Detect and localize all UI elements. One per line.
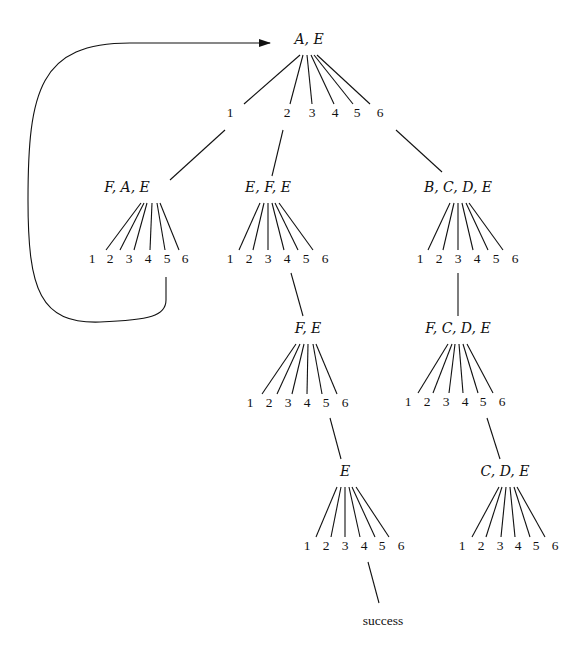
state-node-fae: F, A, E [103,179,150,195]
choice-label: 1 [227,251,234,266]
state-node-cde: C, D, E [481,463,530,479]
choice-label: 3 [443,394,450,409]
choice-label: 5 [354,105,361,120]
branch-edge [486,487,502,537]
choice-label: 6 [182,251,189,266]
choice-label: 6 [342,395,349,410]
choice-label: 2 [107,251,114,266]
branch-edge [331,487,341,537]
choice-label: 3 [497,538,504,553]
branch-edge [469,203,503,250]
branch-edge [418,344,448,393]
search-tree-diagram: A, E123456F, A, E123456E, F, E123456B, C… [0,0,584,650]
choice-label: 6 [377,105,384,120]
branch-edge [150,203,152,250]
state-node-e: E [339,463,350,479]
choice-label: 1 [459,538,466,553]
choice-label: 4 [361,538,368,553]
choice-label: 2 [284,105,291,120]
branch-edge [314,55,353,104]
branch-edge [433,344,452,393]
branch-edge [462,203,473,250]
state-node-bcde: B, C, D, E [423,179,492,195]
branch-edge [311,55,334,104]
branch-edge [253,203,264,250]
choice-label: 5 [533,538,540,553]
branch-edge [501,487,506,537]
choice-label: 2 [436,251,443,266]
state-node-efe: E, F, E [244,179,291,195]
choice-label: 6 [552,538,559,553]
choice-label: 1 [227,105,234,120]
choice-label: 6 [398,538,405,553]
branch-edge [316,344,337,394]
choice-label: 3 [342,538,349,553]
link-edge-efe-fe [291,273,303,316]
branch-edge [517,487,545,537]
branch-edge [292,344,304,394]
choice-label: 2 [266,395,273,410]
link-edge-root-fae [170,130,225,180]
branch-edge [352,487,375,537]
choice-label: 2 [478,538,485,553]
choice-label: 2 [323,538,330,553]
branch-edge [317,55,370,104]
choice-label: 3 [285,395,292,410]
choice-label: 6 [512,251,519,266]
branch-edge [157,203,165,250]
choice-label: 1 [405,394,412,409]
choice-label: 4 [332,105,339,120]
branch-edge [277,344,300,394]
branch-edge [239,203,260,250]
branch-edge [262,344,296,394]
choice-label: 5 [164,251,171,266]
choice-label: 4 [474,251,481,266]
state-node-fe: F, E [294,320,322,336]
branch-edge [316,487,337,537]
branch-edge [313,344,322,394]
branch-edge [307,344,308,394]
choice-label: 5 [379,538,386,553]
choice-label: 1 [304,538,311,553]
state-node-fcde: F, C, D, E [424,320,490,336]
choice-label: 5 [303,251,310,266]
branch-edge [449,344,455,393]
branch-edge [514,487,530,537]
choice-label: 3 [126,251,133,266]
branch-edge [160,203,179,250]
branch-edge [459,344,463,393]
choice-label: 4 [515,538,522,553]
choice-label: 3 [265,251,272,266]
choice-label: 1 [247,395,254,410]
branch-edge [356,487,389,537]
choice-label: 5 [323,395,330,410]
choice-label: 6 [322,251,329,266]
branch-edge [279,203,313,250]
branch-edge [466,203,488,250]
choice-label: 4 [462,394,469,409]
choice-label: 4 [304,395,311,410]
choice-label: 5 [480,394,487,409]
link-edge-root-efe [272,130,283,176]
branch-edge [428,203,450,250]
link-edge-e-success [368,562,379,603]
choice-label: 6 [499,394,506,409]
choice-label: 4 [284,251,291,266]
link-edge-root-bcde [396,130,442,172]
choice-label: 2 [424,394,431,409]
branch-edge [443,203,454,250]
choice-label: 5 [493,251,500,266]
choice-label: 3 [309,105,316,120]
branch-edge [472,487,499,537]
choice-label: 4 [145,251,152,266]
link-edge-fe-e [330,418,341,459]
labels-layer: A, E123456F, A, E123456E, F, E123456B, C… [89,31,559,553]
choice-label: 3 [455,251,462,266]
branch-edge [349,487,360,537]
branch-edge [307,55,312,104]
state-node-root: A, E [292,31,323,47]
choice-label: 2 [246,251,253,266]
success-label: success [363,613,404,628]
link-edge-fcde-cde [487,418,500,459]
choice-label: 1 [417,251,424,266]
